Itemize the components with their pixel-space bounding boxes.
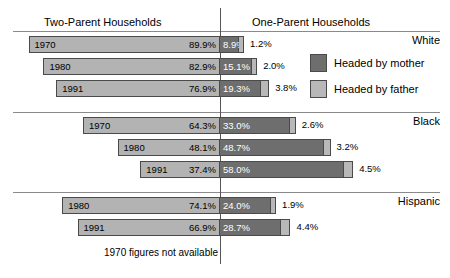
legend-swatch-mother: [310, 54, 327, 72]
segment-two-parent: 198074.1%: [62, 197, 220, 214]
bar-year-label: 1980: [49, 61, 70, 72]
value-headed-by-father: 3.8%: [275, 82, 297, 93]
legend: Headed by mother Headed by father: [310, 52, 425, 104]
value-headed-by-mother: 58.0%: [223, 164, 250, 175]
segment-two-parent: 197064.3%: [83, 117, 220, 134]
value-headed-by-mother: 19.3%: [223, 83, 250, 94]
footnote: 1970 figures not available: [104, 247, 218, 258]
segment-headed-by-father: [261, 80, 269, 97]
segment-headed-by-mother: 8.9%: [220, 36, 239, 53]
value-headed-by-father: 1.2%: [250, 38, 272, 49]
segment-headed-by-mother: 58.0%: [220, 161, 344, 178]
segment-two-parent: 198082.9%: [43, 58, 220, 75]
value-two-parent: 89.9%: [189, 39, 216, 50]
header-one-parent-title: One-Parent Households: [252, 16, 370, 28]
legend-label-father: Headed by father: [334, 83, 418, 95]
segment-headed-by-mother: 15.1%: [220, 58, 252, 75]
bar-row: 199137.4%58.0%4.5%: [0, 161, 450, 178]
rule-group-black: [13, 112, 440, 113]
segment-headed-by-father: [239, 36, 244, 53]
bar-year-label: 1970: [35, 39, 56, 50]
value-two-parent: 76.9%: [189, 83, 216, 94]
bar-row: 199166.9%28.7%4.4%: [0, 219, 450, 236]
bar-row: 198048.1%48.7%3.2%: [0, 139, 450, 156]
value-headed-by-mother: 33.0%: [223, 120, 250, 131]
segment-headed-by-father: [271, 197, 276, 214]
value-headed-by-father: 4.4%: [297, 221, 319, 232]
bar-year-label: 1980: [68, 200, 89, 211]
segment-headed-by-mother: 48.7%: [220, 139, 324, 156]
value-headed-by-mother: 24.0%: [223, 200, 250, 211]
value-headed-by-father: 2.6%: [302, 119, 324, 130]
segment-headed-by-father: [290, 117, 296, 134]
segment-two-parent: 197089.9%: [29, 36, 220, 53]
value-two-parent: 48.1%: [189, 142, 216, 153]
value-headed-by-father: 4.5%: [359, 163, 381, 174]
segment-headed-by-mother: 33.0%: [220, 117, 290, 134]
value-headed-by-father: 3.2%: [337, 141, 359, 152]
segment-headed-by-father: [344, 161, 354, 178]
value-headed-by-mother: 48.7%: [223, 142, 250, 153]
segment-headed-by-father: [281, 219, 290, 236]
value-two-parent: 74.1%: [189, 200, 216, 211]
legend-item-father: Headed by father: [310, 78, 425, 100]
legend-item-mother: Headed by mother: [310, 52, 425, 74]
bar-year-label: 1991: [146, 164, 167, 175]
segment-headed-by-mother: 28.7%: [220, 219, 281, 236]
segment-headed-by-father: [324, 139, 331, 156]
bar-row: 198074.1%24.0%1.9%: [0, 197, 450, 214]
legend-swatch-father: [310, 80, 327, 98]
segment-two-parent: 198048.1%: [118, 139, 220, 156]
rule-group-hispanic: [13, 192, 440, 193]
value-two-parent: 64.3%: [189, 120, 216, 131]
bar-year-label: 1970: [89, 120, 110, 131]
rule-header: [13, 31, 440, 32]
value-two-parent: 66.9%: [189, 222, 216, 233]
value-two-parent: 82.9%: [189, 61, 216, 72]
bar-row: 197089.9%8.9%1.2%: [0, 36, 450, 53]
segment-two-parent: 199176.9%: [56, 80, 220, 97]
value-two-parent: 37.4%: [189, 164, 216, 175]
bar-row: 197064.3%33.0%2.6%: [0, 117, 450, 134]
legend-label-mother: Headed by mother: [334, 57, 425, 69]
value-headed-by-father: 2.0%: [263, 60, 285, 71]
bar-year-label: 1980: [124, 142, 145, 153]
segment-two-parent: 199166.9%: [78, 219, 220, 236]
segment-two-parent: 199137.4%: [140, 161, 220, 178]
segment-headed-by-father: [252, 58, 257, 75]
value-headed-by-father: 1.9%: [282, 199, 304, 210]
segment-headed-by-mother: 24.0%: [220, 197, 271, 214]
bar-year-label: 1991: [62, 83, 83, 94]
segment-headed-by-mother: 19.3%: [220, 80, 261, 97]
header-two-parent-title: Two-Parent Households: [44, 16, 161, 28]
value-headed-by-mother: 15.1%: [223, 61, 250, 72]
value-headed-by-mother: 28.7%: [223, 222, 250, 233]
diverging-bar-chart: Two-Parent Households One-Parent Househo…: [0, 0, 450, 278]
bar-year-label: 1991: [84, 222, 105, 233]
